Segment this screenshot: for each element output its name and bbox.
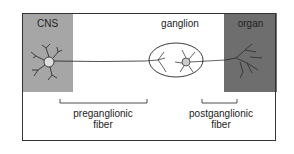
postganglionic-line2: fiber <box>180 119 262 130</box>
ganglion-neuron-icon <box>145 50 225 72</box>
ganglion-label: ganglion <box>150 18 210 29</box>
preganglionic-line1: preganglionic <box>63 108 143 119</box>
preganglionic-bracket <box>60 99 147 103</box>
cns-neuron-icon <box>31 44 62 80</box>
postganglionic-line1: postganglionic <box>180 108 262 119</box>
organ-label: organ <box>224 18 277 29</box>
organ-terminal-icon <box>225 44 262 78</box>
cns-label: CNS <box>22 18 73 29</box>
preganglionic-line2: fiber <box>63 119 143 130</box>
postganglionic-bracket <box>202 99 237 103</box>
preganglionic-axon <box>54 61 145 62</box>
preganglionic-label: preganglionic fiber <box>63 108 143 130</box>
postganglionic-label: postganglionic fiber <box>180 108 262 130</box>
